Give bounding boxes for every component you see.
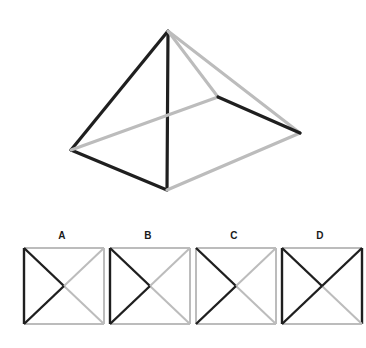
option-a[interactable]: A	[22, 230, 102, 322]
pyramid-edge-front-to-right	[167, 133, 300, 190]
option-d-figure[interactable]	[280, 246, 360, 322]
option-a-diag-center-br	[64, 286, 104, 324]
option-d-svg	[280, 246, 364, 326]
option-c-label: C	[230, 230, 238, 242]
option-d-diag-center-br	[322, 286, 362, 324]
page-root: ABCD	[0, 0, 366, 348]
option-d-diag-tl-center	[282, 248, 322, 286]
option-c-diag-tl-center	[196, 248, 236, 286]
option-b-figure[interactable]	[108, 246, 188, 322]
option-b-diag-center-tr	[150, 248, 190, 286]
option-a-label: A	[58, 230, 66, 242]
stimulus-figure	[0, 0, 366, 222]
option-d-diag-bl-center	[282, 286, 322, 324]
pyramid-edge-apex-to-right	[168, 31, 300, 133]
option-c[interactable]: C	[194, 230, 274, 322]
option-c-diag-bl-center	[196, 286, 236, 324]
option-b-diag-tl-center	[110, 248, 150, 286]
option-d-label: D	[316, 230, 324, 242]
option-b-label: B	[144, 230, 152, 242]
option-a-diag-tl-center	[24, 248, 64, 286]
pyramid-wireframe-svg	[0, 0, 366, 222]
answer-options-row: ABCD	[0, 230, 366, 334]
option-a-diag-bl-center	[24, 286, 64, 324]
option-c-svg	[194, 246, 278, 326]
option-c-diag-center-br	[236, 286, 276, 324]
option-a-svg	[22, 246, 106, 326]
option-c-figure[interactable]	[194, 246, 274, 322]
option-a-diag-center-tr	[64, 248, 104, 286]
pyramid-edge-apex-to-front	[167, 31, 168, 190]
option-b-diag-center-br	[150, 286, 190, 324]
option-b-diag-bl-center	[110, 286, 150, 324]
option-c-diag-center-tr	[236, 248, 276, 286]
option-d-diag-center-tr	[322, 248, 362, 286]
pyramid-edge-left-to-front	[71, 150, 167, 190]
option-b[interactable]: B	[108, 230, 188, 322]
option-d[interactable]: D	[280, 230, 360, 322]
option-a-figure[interactable]	[22, 246, 102, 322]
option-b-svg	[108, 246, 192, 326]
